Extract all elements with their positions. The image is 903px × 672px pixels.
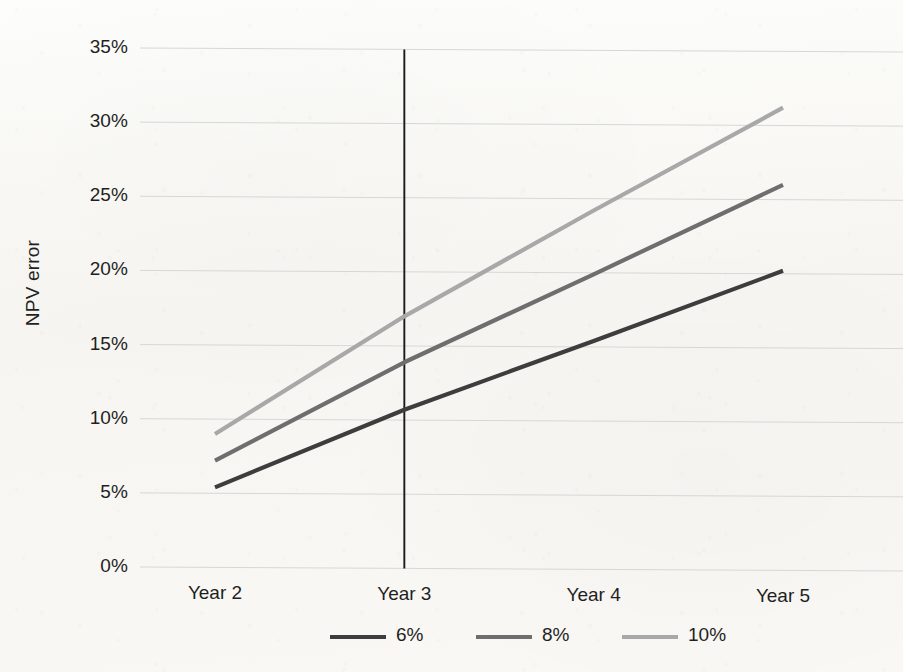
npv-error-line-chart [0,0,903,672]
y-tick-label-25: 25% [48,184,128,206]
gridline-20 [140,270,903,274]
y-tick-label-0: 0% [48,555,128,577]
gridline-30 [140,122,903,126]
y-tick-label-5: 5% [48,481,128,503]
gridline-15 [140,345,903,349]
gridline-35 [140,48,903,52]
y-axis-title: NPV error [22,203,44,363]
x-tick-label-year-5: Year 5 [718,585,848,607]
x-tick-label-year-3: Year 3 [339,583,469,605]
y-tick-label-10: 10% [48,407,128,429]
y-tick-label-30: 30% [48,110,128,132]
legend-label-10pct[interactable]: 10% [688,624,726,646]
y-tick-label-15: 15% [48,333,128,355]
legend-label-8pct[interactable]: 8% [542,624,569,646]
x-tick-label-year-2: Year 2 [150,582,280,604]
y-tick-label-20: 20% [48,258,128,280]
chart-page: NPV error 35%30%25%20%15%10%5%0% Year 2Y… [0,0,903,672]
x-tick-label-year-4: Year 4 [529,584,659,606]
gridline-10 [140,419,903,423]
gridline-25 [140,196,903,200]
y-tick-label-35: 35% [48,36,128,58]
legend-label-6pct[interactable]: 6% [396,624,423,646]
gridline-5 [140,493,903,497]
series-lines-group [215,108,783,488]
gridline-0 [140,567,903,571]
